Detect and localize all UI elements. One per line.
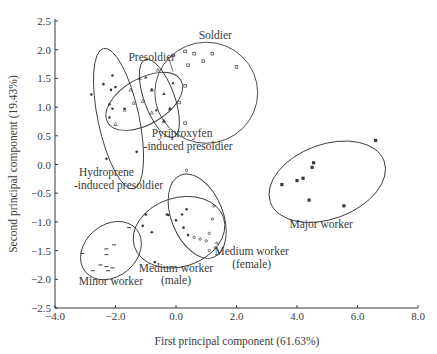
- y-tick-label: 0.0: [37, 159, 51, 171]
- pca-scatter-chart: −4.0−2.00.02.04.06.08.02.52.01.51.00.50.…: [0, 0, 437, 354]
- cluster-label: Minor worker: [79, 275, 143, 287]
- y-tick-label: −1.0: [31, 216, 51, 228]
- data-point: [199, 238, 201, 240]
- cluster-label: Soldier: [199, 29, 232, 41]
- data-point: [342, 204, 345, 207]
- data-point: [123, 108, 126, 111]
- data-point: [295, 179, 298, 182]
- y-tick-label: 2.5: [37, 15, 51, 27]
- data-point: [105, 157, 108, 160]
- cluster-label: (male): [161, 274, 191, 287]
- data-point: [181, 213, 184, 216]
- data-point: [114, 123, 117, 126]
- data-point: [90, 93, 93, 96]
- data-point: [151, 231, 154, 234]
- data-point: [150, 111, 153, 114]
- x-tick-label: 0.0: [169, 310, 183, 322]
- data-point: [205, 240, 207, 242]
- data-point: [108, 116, 111, 119]
- data-point: [213, 205, 215, 207]
- y-tick-label: −2.0: [31, 273, 51, 285]
- cluster-label: Pyriproxyfen: [152, 127, 213, 140]
- data-point: [108, 103, 111, 106]
- data-point: [178, 101, 181, 104]
- data-point: [208, 232, 210, 234]
- data-point: [114, 86, 117, 89]
- data-point: [193, 52, 196, 55]
- data-point: [167, 214, 170, 217]
- data-point: [184, 85, 187, 88]
- data-point: [280, 183, 283, 186]
- data-point: [171, 81, 174, 84]
- cluster-label: Major worker: [289, 218, 353, 231]
- data-point: [110, 89, 113, 92]
- data-point: [187, 64, 190, 67]
- cluster-labels: SoldierPresoldierPyriproxyfen-induced pr…: [74, 29, 353, 287]
- data-point: [308, 198, 311, 201]
- data-point: [211, 52, 214, 55]
- data-point: [184, 122, 187, 125]
- data-point: [102, 83, 105, 86]
- y-tick-label: −2.5: [31, 302, 51, 314]
- data-point: [182, 226, 185, 229]
- y-tick-label: 2.0: [37, 44, 51, 56]
- data-point: [185, 169, 187, 171]
- data-point: [156, 68, 159, 71]
- data-point: [311, 166, 314, 169]
- data-point: [202, 60, 205, 63]
- data-point: [135, 151, 138, 154]
- data-point: [132, 101, 135, 104]
- cluster-label: Medium worker: [139, 262, 214, 274]
- y-tick-label: −0.5: [31, 187, 51, 199]
- x-tick-label: 4.0: [290, 310, 304, 322]
- y-tick-label: 1.0: [37, 101, 51, 113]
- cluster-label: (female): [232, 258, 271, 271]
- x-tick-label: −2.0: [106, 310, 126, 322]
- data-point: [185, 208, 188, 211]
- x-tick-label: 8.0: [411, 310, 425, 322]
- cluster-label: -induced presoldier: [144, 140, 233, 153]
- data-point: [162, 92, 165, 95]
- y-tick-label: −1.5: [31, 245, 51, 257]
- x-axis-label: First principal component (61.63%): [155, 335, 320, 348]
- x-tick-label: 2.0: [230, 310, 244, 322]
- data-point: [187, 234, 190, 237]
- y-tick-label: 0.5: [37, 130, 51, 142]
- y-tick-label: 1.5: [37, 72, 51, 84]
- y-axis-label: Second principal component (19.43%): [7, 75, 20, 253]
- data-point: [312, 161, 315, 164]
- cluster-label: Hydroprene: [79, 166, 134, 179]
- data-point: [111, 108, 114, 111]
- data-point: [144, 213, 147, 216]
- data-point: [211, 218, 213, 220]
- cluster-label: Presoldier: [128, 51, 175, 63]
- data-point: [184, 50, 187, 53]
- data-point: [111, 74, 114, 77]
- data-point: [216, 242, 218, 244]
- data-point: [208, 249, 210, 251]
- data-point: [175, 219, 178, 222]
- data-point: [235, 66, 238, 69]
- data-point: [301, 177, 304, 180]
- cluster-label: Medium worker: [214, 245, 289, 257]
- cluster-label: -induced presoldier: [74, 179, 163, 192]
- x-tick-label: 6.0: [351, 310, 365, 322]
- data-point: [374, 139, 377, 142]
- data-points: [80, 50, 377, 271]
- data-point: [193, 236, 195, 238]
- data-point: [141, 225, 144, 228]
